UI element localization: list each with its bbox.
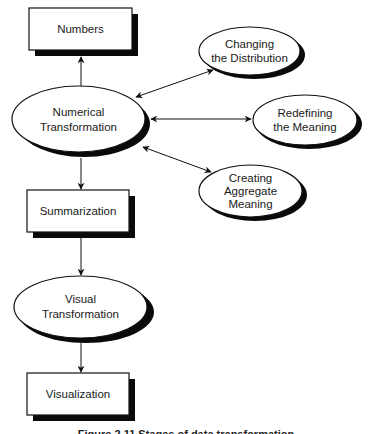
numbers-label: Numbers <box>57 23 104 35</box>
creating-aggregate-line3: Meaning <box>228 198 272 210</box>
creating-aggregate-line1: Creating <box>229 172 272 184</box>
visual-transformation-line1: Visual <box>65 293 96 305</box>
node-visualization: Visualization <box>27 373 135 421</box>
summarization-label: Summarization <box>40 205 117 217</box>
node-redefining-meaning: Redefining the Meaning <box>253 95 362 149</box>
arrow-numerical-creating <box>143 147 211 172</box>
node-creating-aggregate: Creating Aggregate Meaning <box>199 165 307 221</box>
figure-caption: Figure 2.11 Stages of data transformatio… <box>0 426 372 434</box>
flow-diagram: Numbers Numerical Transformation Changin… <box>0 0 372 434</box>
changing-distribution-line2: the Distribution <box>211 52 288 64</box>
creating-aggregate-line2: Aggregate <box>224 185 277 197</box>
figure-caption-text: Figure 2.11 Stages of data transformatio… <box>0 426 372 434</box>
arrow-numerical-changing <box>136 70 213 97</box>
numerical-transformation-line2: Transformation <box>40 121 117 133</box>
changing-distribution-line1: Changing <box>225 38 274 50</box>
node-numbers: Numbers <box>29 8 138 56</box>
node-visual-transformation: Visual Transformation <box>14 276 154 343</box>
visualization-label: Visualization <box>46 388 110 400</box>
redefining-meaning-line1: Redefining <box>278 107 333 119</box>
node-changing-distribution: Changing the Distribution <box>199 27 305 79</box>
node-numerical-transformation: Numerical Transformation <box>12 86 150 157</box>
redefining-meaning-line2: the Meaning <box>273 121 336 133</box>
numerical-transformation-line1: Numerical <box>53 106 105 118</box>
visual-transformation-line2: Transformation <box>42 308 119 320</box>
node-summarization: Summarization <box>27 190 135 238</box>
